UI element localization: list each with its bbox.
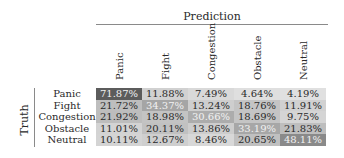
matrix-cell: 8.46%	[188, 134, 234, 146]
truth-axis-title: Truth	[14, 95, 34, 145]
row-label-fight: Fight	[38, 100, 96, 112]
matrix-cell: 18.98%	[142, 111, 188, 123]
truth-axis-rule	[34, 88, 35, 147]
truth-axis-text: Truth	[18, 104, 31, 135]
matrix-cell: 7.49%	[188, 88, 234, 100]
matrix-cell: 48.11%	[280, 134, 326, 146]
matrix-cell: 11.88%	[142, 88, 188, 100]
matrix-cell: 18.69%	[234, 111, 280, 123]
matrix-cell: 33.19%	[234, 123, 280, 135]
column-label-text: Obstacle	[252, 36, 263, 80]
column-label-text: Fight	[160, 53, 171, 80]
matrix-cell: 21.72%	[96, 100, 142, 112]
matrix-cell: 20.11%	[142, 123, 188, 135]
matrix-cell: 30.66%	[188, 111, 234, 123]
matrix-cell: 21.92%	[96, 111, 142, 123]
column-label-fight: Fight	[142, 28, 188, 80]
column-label-neutral: Neutral	[280, 28, 326, 80]
matrix-cell: 12.67%	[142, 134, 188, 146]
matrix-cell: 71.87%	[96, 88, 142, 100]
matrix-cell: 4.19%	[280, 88, 326, 100]
row-label-congestion: Congestion	[38, 111, 96, 123]
row-label-panic: Panic	[38, 88, 96, 100]
matrix-cell: 20.65%	[234, 134, 280, 146]
matrix-cell: 18.76%	[234, 100, 280, 112]
column-label-text: Neutral	[298, 41, 309, 80]
column-label-obstacle: Obstacle	[234, 28, 280, 80]
row-label-obstacle: Obstacle	[38, 123, 96, 135]
matrix-cell: 10.11%	[96, 134, 142, 146]
matrix-cell: 13.24%	[188, 100, 234, 112]
column-label-text: Panic	[114, 53, 125, 80]
matrix-cell: 34.37%	[142, 100, 188, 112]
column-label-panic: Panic	[96, 28, 142, 80]
matrix-cell: 9.75%	[280, 111, 326, 123]
matrix-cell: 11.91%	[280, 100, 326, 112]
row-label-neutral: Neutral	[38, 134, 96, 146]
matrix-cell: 4.64%	[234, 88, 280, 100]
column-label-congestion: Congestion	[188, 28, 234, 80]
prediction-axis-title: Prediction	[96, 10, 328, 23]
matrix-cell: 21.83%	[280, 123, 326, 135]
matrix-cell: 13.86%	[188, 123, 234, 135]
matrix-cell: 11.01%	[96, 123, 142, 135]
column-label-text: Congestion	[206, 23, 217, 80]
